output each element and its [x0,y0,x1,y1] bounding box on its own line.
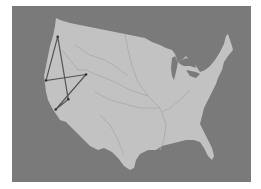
route-point [54,108,57,111]
route-point [67,98,70,101]
us-map [0,0,261,189]
route-point [45,79,48,82]
route-point [85,73,88,76]
route-point [56,35,59,38]
us-landmass [44,18,233,170]
